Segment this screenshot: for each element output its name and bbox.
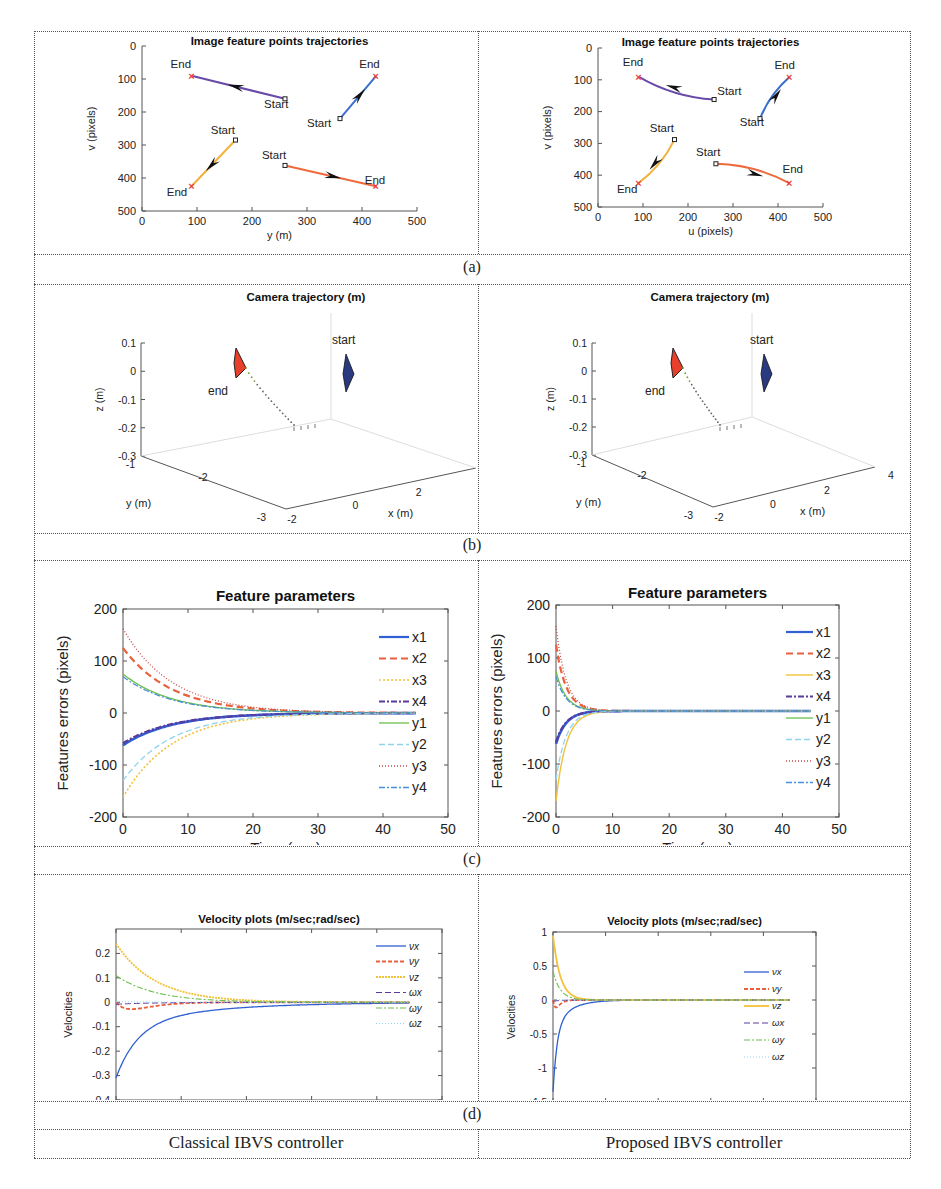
svg-text:Start: Start	[307, 117, 332, 129]
row-label-d: (d)	[34, 1105, 910, 1123]
svg-text:Start: Start	[211, 124, 236, 136]
svg-text:y3: y3	[412, 758, 427, 774]
svg-text:y4: y4	[412, 779, 427, 795]
svg-text:νx: νx	[409, 941, 420, 952]
svg-text:ωy: ωy	[409, 1003, 423, 1014]
svg-text:100: 100	[188, 215, 206, 227]
svg-text:×: ×	[188, 180, 194, 192]
svg-text:20: 20	[245, 821, 261, 837]
svg-text:-1.5: -1.5	[530, 1097, 548, 1101]
column-divider	[478, 560, 479, 846]
svg-text:0: 0	[139, 215, 145, 227]
svg-text:Time (sec): Time (sec)	[662, 839, 732, 845]
svg-text:ωx: ωx	[772, 1017, 785, 1028]
chart-image-trajectories-proposed: 01002003004005000100200300400500Image fe…	[480, 32, 908, 253]
svg-text:2: 2	[416, 486, 422, 498]
table-border-right	[910, 31, 911, 1158]
svg-text:x2: x2	[816, 645, 831, 661]
svg-text:End: End	[623, 56, 643, 68]
svg-text:Image feature points trajector: Image feature points trajectories	[622, 36, 800, 48]
svg-text:2: 2	[824, 484, 830, 496]
svg-text:νy: νy	[772, 983, 783, 994]
svg-text:100: 100	[118, 73, 136, 85]
row-label-b: (b)	[34, 536, 910, 554]
svg-text:νz: νz	[772, 1000, 782, 1011]
chart-camera-trajectory-proposed: Camera trajectory (m)0.10-0.1-0.2-0.3z (…	[480, 285, 908, 532]
svg-text:-0.5: -0.5	[530, 1029, 548, 1040]
svg-text:Start: Start	[650, 122, 675, 134]
svg-text:ωz: ωz	[409, 1018, 422, 1029]
column-divider	[478, 284, 479, 533]
svg-text:End: End	[783, 163, 803, 175]
svg-text:x4: x4	[412, 693, 427, 709]
svg-text:10: 10	[605, 821, 621, 837]
svg-text:End: End	[359, 58, 379, 70]
svg-text:×: ×	[635, 71, 641, 83]
svg-text:500: 500	[408, 215, 426, 227]
svg-text:30: 30	[718, 821, 734, 837]
svg-text:Velocities: Velocities	[505, 995, 517, 1039]
svg-text:0: 0	[581, 365, 587, 377]
svg-text:νz: νz	[409, 972, 419, 983]
row-label-a: (a)	[34, 258, 910, 276]
svg-text:0: 0	[130, 40, 136, 52]
row-divider	[34, 1101, 910, 1102]
svg-text:0: 0	[586, 42, 592, 54]
svg-text:0: 0	[104, 996, 110, 1008]
svg-text:×: ×	[786, 71, 792, 83]
svg-text:y1: y1	[816, 710, 831, 726]
svg-text:300: 300	[298, 215, 316, 227]
svg-text:-0.1: -0.1	[92, 1020, 110, 1032]
svg-text:0.2: 0.2	[95, 947, 110, 959]
svg-text:-0.1: -0.1	[118, 394, 136, 406]
svg-text:100: 100	[574, 74, 592, 86]
chart-camera-trajectory-classical: Camera trajectory (m)0.10-0.1-0.2-0.3z (…	[36, 285, 476, 532]
svg-text:40: 40	[375, 821, 391, 837]
svg-text:200: 200	[118, 106, 136, 118]
column-divider	[478, 874, 479, 1101]
svg-text:End: End	[365, 174, 385, 186]
svg-text:End: End	[167, 186, 187, 198]
svg-text:-3: -3	[257, 511, 266, 523]
svg-text:νy: νy	[409, 956, 420, 967]
row-divider	[34, 254, 910, 255]
svg-text:-2: -2	[637, 469, 646, 481]
row-divider	[34, 1129, 910, 1130]
svg-text:x3: x3	[816, 667, 831, 683]
svg-text:νx: νx	[772, 966, 783, 977]
svg-text:-200: -200	[522, 809, 550, 825]
chart-velocities-classical: 010203040500.20.10-0.1-0.2-0.3-0.4Veloci…	[36, 875, 476, 1100]
footer-proposed-label: Proposed IBVS controller	[478, 1133, 910, 1153]
svg-text:y (m): y (m)	[576, 496, 601, 508]
svg-text:Start: Start	[740, 116, 765, 128]
svg-text:0: 0	[130, 365, 136, 377]
svg-text:0: 0	[541, 995, 547, 1006]
svg-text:300: 300	[118, 139, 136, 151]
svg-text:200: 200	[679, 211, 697, 223]
svg-text:y (m): y (m)	[126, 497, 151, 509]
svg-text:Features errors (pixels): Features errors (pixels)	[54, 635, 71, 790]
svg-text:500: 500	[574, 201, 592, 213]
row-divider	[34, 533, 910, 534]
svg-text:0: 0	[352, 499, 358, 511]
svg-text:-1: -1	[538, 1063, 547, 1074]
svg-text:100: 100	[94, 653, 118, 669]
svg-text:50: 50	[440, 821, 456, 837]
svg-text:z (m): z (m)	[544, 387, 556, 411]
svg-text:Time (sec): Time (sec)	[250, 839, 320, 845]
table-border-left	[34, 31, 35, 1158]
svg-text:0.1: 0.1	[572, 337, 587, 349]
svg-text:ωx: ωx	[409, 987, 423, 998]
svg-text:-0.2: -0.2	[92, 1045, 110, 1057]
svg-text:-2: -2	[714, 511, 723, 523]
table-border-bottom	[34, 1158, 910, 1159]
footer-classical-label: Classical IBVS controller	[34, 1133, 478, 1153]
svg-text:Camera trajectory (m): Camera trajectory (m)	[651, 291, 770, 303]
svg-text:ωz: ωz	[772, 1051, 784, 1062]
svg-text:200: 200	[94, 601, 118, 617]
svg-text:y2: y2	[412, 736, 427, 752]
svg-text:200: 200	[243, 215, 261, 227]
svg-text:ωy: ωy	[772, 1034, 785, 1045]
svg-text:v (pixels): v (pixels)	[85, 106, 97, 150]
row-label-c: (c)	[34, 850, 910, 868]
